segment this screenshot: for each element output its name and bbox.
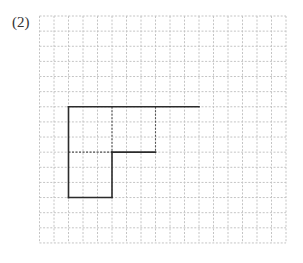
- grid-figure: [0, 0, 303, 263]
- dashed-grid: [40, 16, 287, 243]
